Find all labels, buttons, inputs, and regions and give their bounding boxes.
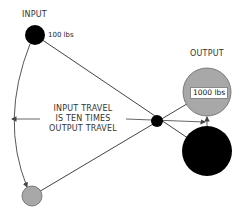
output-travel-arrow (126, 119, 205, 122)
fulcrum-circle (151, 115, 163, 127)
caption-line-3: OUTPUT TRAVEL (40, 124, 126, 134)
input-end-circle (22, 186, 42, 206)
output-label: OUTPUT (190, 49, 224, 58)
input-start-circle (25, 25, 45, 45)
caption-line-1: INPUT TRAVEL (40, 104, 126, 114)
input-label: INPUT (22, 10, 47, 19)
input-weight-label: 100 lbs (48, 31, 74, 39)
caption-line-2: IS TEN TIMES (40, 114, 126, 124)
output-weight-label: 1000 lbs (190, 87, 228, 99)
travel-caption: INPUT TRAVEL IS TEN TIMES OUTPUT TRAVEL (40, 104, 126, 134)
input-travel-arc (14, 44, 30, 187)
output-end-circle (182, 126, 232, 176)
